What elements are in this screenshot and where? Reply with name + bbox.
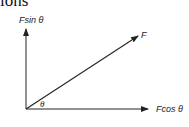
angle-label: θ	[40, 99, 45, 109]
y-component-label: Fsin θ	[19, 15, 44, 25]
vector-label: F	[141, 30, 147, 40]
force-resolution-diagram: Fsin θ F Fcos θ θ	[0, 0, 189, 127]
x-component-label: Fcos θ	[156, 104, 183, 114]
